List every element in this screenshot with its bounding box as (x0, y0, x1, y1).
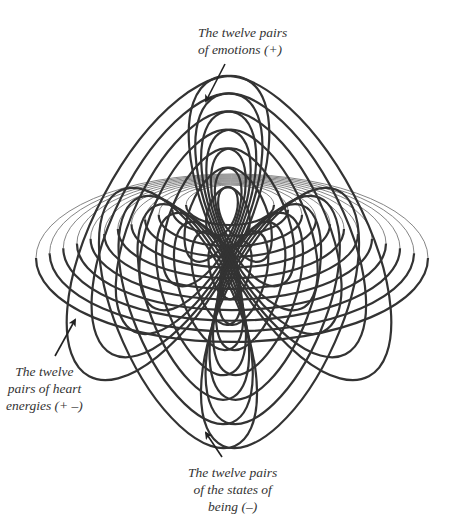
heart-energies-label: The twelve pairs of heart energies (+ –) (6, 363, 83, 414)
emotions-label-line1: The twelve pairs (198, 24, 287, 41)
emotion-lobe-left (57, 68, 298, 382)
emotions-label-line2: of emotions (+) (198, 41, 287, 58)
heart-energies-label-line1: The twelve (6, 363, 83, 380)
states-of-being-label-line3: being (–) (188, 498, 277, 515)
twelve-pairs-diagram (0, 0, 451, 531)
states-of-being-label: The twelve pairs of the states of being … (188, 464, 277, 515)
states-of-being-label-line2: of the states of (188, 481, 277, 498)
emotion-lobe-left (26, 46, 311, 410)
heart-energies-label-line3: energies (+ –) (6, 397, 83, 414)
heart-energies-arrow-icon (55, 320, 75, 356)
heart-energies-label-line2: pairs of heart (6, 380, 83, 397)
emotions-label: The twelve pairs of emotions (+) (198, 24, 287, 58)
emotions-lobes (26, 46, 433, 410)
states-of-being-label-line1: The twelve pairs (188, 464, 277, 481)
